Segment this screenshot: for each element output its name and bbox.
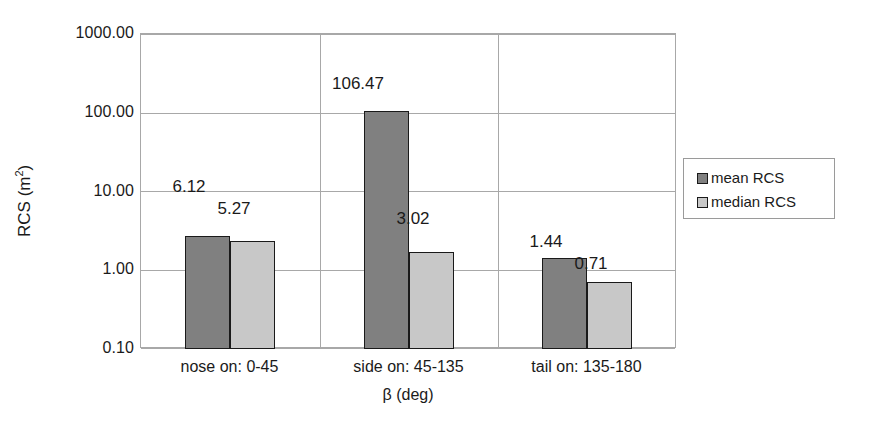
legend-item-median-rcs[interactable]: median RCS [697,194,796,210]
bar-median-tail-on[interactable] [587,282,632,349]
x-category-label-nose-on: nose on: 0-45 [140,358,319,376]
legend-swatch-mean-icon [697,173,708,184]
x-category-label-side-on: side on: 45-135 [319,358,498,376]
rcs-bar-chart-figure: 1000.00 100.00 10.00 1.00 0.10 RCS (m2) … [0,0,871,435]
bar-mean-nose-on[interactable] [185,236,230,349]
value-label-mean-side-on: 106.47 [320,75,396,93]
bar-median-nose-on[interactable] [230,241,275,349]
y-tick-label: 100.00 [84,104,134,120]
value-label-mean-nose-on: 6.12 [159,178,219,196]
bar-median-side-on[interactable] [409,252,454,349]
legend-item-mean-rcs[interactable]: mean RCS [697,170,784,186]
y-tick-label: 0.10 [102,340,134,356]
legend-label-median-rcs: median RCS [711,194,796,210]
legend-swatch-median-icon [697,197,708,208]
y-tick-label: 1000.00 [75,25,134,41]
legend-label-mean-rcs: mean RCS [711,170,784,186]
y-axis-title-superscript: 2 [13,170,25,176]
x-axis-title: β (deg) [140,386,676,404]
gridline-y-1000 [141,34,675,35]
y-tick-label: 1.00 [102,261,134,277]
plot-area [140,33,676,348]
y-tick-label: 10.00 [93,183,134,199]
value-label-median-side-on: 3.02 [383,210,443,228]
bar-mean-side-on[interactable] [364,111,409,349]
x-category-label-tail-on: tail on: 135-180 [497,358,676,376]
y-axis-title-main: RCS (m [15,177,34,237]
category-separator-2 [498,34,499,347]
value-label-mean-tail-on: 1.44 [516,233,576,251]
y-axis-title-close: ) [15,165,34,171]
y-axis-title: RCS (m2) [13,141,35,261]
value-label-median-nose-on: 5.27 [204,200,264,218]
value-label-median-tail-on: 0.71 [561,255,621,273]
legend: mean RCS median RCS [683,158,835,219]
